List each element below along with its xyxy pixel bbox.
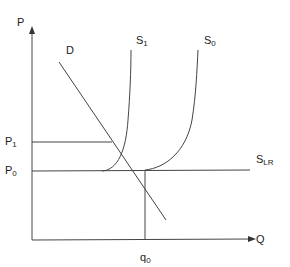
- s1-label: S1: [136, 35, 148, 48]
- p0-label: P0: [5, 165, 17, 178]
- p1-label: P1: [5, 136, 17, 149]
- x-axis: [32, 239, 252, 240]
- supply-curve-s1: [102, 50, 131, 171]
- demand-label: D: [66, 45, 74, 56]
- slr-label: SLR: [256, 154, 274, 167]
- demand-curve: [59, 62, 166, 220]
- slr-line: [32, 170, 250, 171]
- y-axis-label: P: [17, 17, 24, 28]
- supply-curve-s0: [145, 50, 198, 170]
- q0-label: q0: [140, 252, 151, 265]
- x-axis-label: Q: [256, 234, 265, 245]
- s0-label: S0: [204, 35, 216, 48]
